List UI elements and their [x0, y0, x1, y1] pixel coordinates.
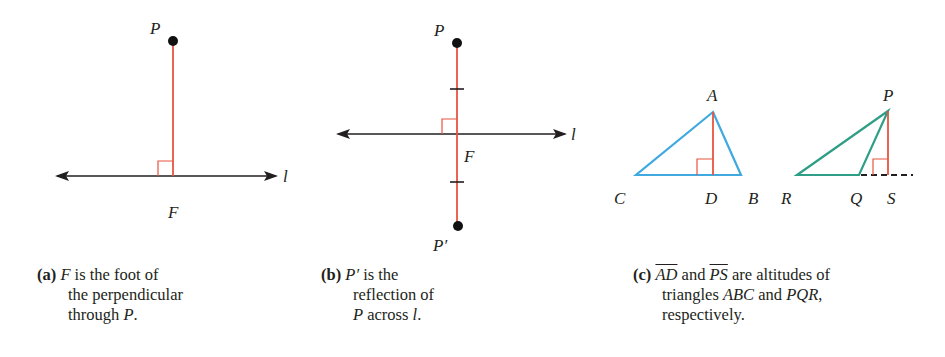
- label-p: P: [433, 21, 444, 40]
- caption-var: PQR: [786, 285, 818, 304]
- label-c: C: [614, 189, 626, 208]
- label-s: S: [887, 189, 896, 208]
- caption-var: P′: [345, 265, 359, 284]
- label-f: F: [463, 147, 475, 166]
- segment-ps: PS: [710, 265, 728, 284]
- label-b: B: [748, 189, 759, 208]
- caption-text: and: [754, 285, 786, 304]
- panel-b-diagram: P P′ F l: [338, 21, 576, 255]
- label-q: Q: [850, 189, 862, 208]
- caption-var: P: [123, 305, 133, 324]
- caption-line: respectively.: [633, 305, 830, 325]
- right-angle-marker: [158, 161, 173, 176]
- caption-text: triangles: [662, 285, 723, 304]
- caption-text: .: [134, 305, 138, 324]
- caption-b: (b) P′ is the reflection of P across l.: [321, 265, 434, 325]
- label-d: D: [704, 189, 718, 208]
- caption-line: triangles ABC and PQR,: [633, 285, 830, 305]
- right-angle-marker-s: [873, 159, 888, 175]
- label-f: F: [167, 203, 179, 222]
- label-l: l: [283, 167, 288, 186]
- label-p-prime: P′: [432, 236, 447, 255]
- caption-text: .: [417, 305, 421, 324]
- label-r: R: [780, 189, 792, 208]
- segment-ad: AD: [655, 265, 677, 284]
- panel-a-diagram: P F l: [57, 19, 288, 222]
- caption-text: and: [677, 265, 709, 284]
- label-p: P: [882, 86, 893, 105]
- caption-text: is the foot of: [70, 265, 158, 284]
- triangle-pqr: [797, 111, 888, 175]
- caption-text: are altitudes of: [728, 265, 830, 284]
- point-p: [452, 38, 462, 48]
- caption-text: is the: [359, 265, 398, 284]
- caption-c: (c) AD and PS are altitudes of triangles…: [633, 265, 830, 325]
- caption-line: P across l.: [321, 305, 434, 325]
- caption-text: through: [68, 305, 123, 324]
- caption-var: F: [60, 265, 70, 284]
- caption-text: ,: [818, 285, 822, 304]
- caption-line: the perpendicular: [37, 285, 183, 305]
- panel-c-diagram: A C D B P R Q S: [614, 86, 913, 208]
- triangle-abc: [636, 112, 741, 175]
- label-a: A: [706, 86, 718, 105]
- right-angle-marker-d: [697, 159, 713, 175]
- point-p: [168, 36, 178, 46]
- label-l: l: [571, 125, 576, 144]
- caption-tag: (a): [37, 265, 56, 284]
- caption-tag: (c): [633, 265, 651, 284]
- right-angle-marker: [442, 119, 457, 134]
- label-p: P: [149, 19, 160, 38]
- caption-line: reflection of: [321, 285, 434, 305]
- caption-line: through P.: [37, 305, 183, 325]
- caption-var: ABC: [723, 285, 754, 304]
- caption-text: across: [363, 305, 412, 324]
- caption-var: P: [353, 305, 363, 324]
- caption-a: (a) F is the foot of the perpendicular t…: [37, 265, 183, 325]
- caption-tag: (b): [321, 265, 341, 284]
- point-p-prime: [453, 221, 463, 231]
